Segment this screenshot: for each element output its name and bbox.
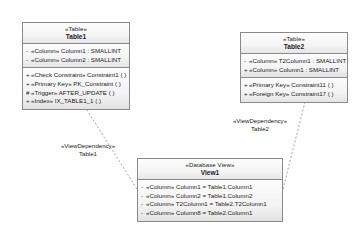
- table1-operation-row[interactable]: +«Index» IX_TABLE1_1 ( ): [23, 97, 129, 106]
- view1-attribute-row[interactable]: -«Column» Column8 = Table2.Column1: [138, 209, 282, 218]
- view1-attribute-row[interactable]: -«Column» Column2 = Table1.Column2: [138, 192, 282, 201]
- table2-name: Table2: [243, 44, 345, 51]
- feature-text: «Column» Column8 = Table2.Column1: [146, 209, 252, 216]
- uml-class-table1[interactable]: «Table» Table1 -«Column» Column1 : SMALL…: [22, 22, 130, 110]
- view1-attributes-compartment: -«Column» Column1 = Table1.Column1 -«Col…: [138, 180, 282, 220]
- table2-stereotype: «Table»: [243, 36, 345, 42]
- connector-label-stereotype: «ViewDependency»: [218, 117, 302, 125]
- table1-attribute-row[interactable]: -«Column» Column2 : SMALLINT: [23, 56, 129, 65]
- table1-attribute-row[interactable]: -«Column» Column1 : SMALLINT: [23, 47, 129, 56]
- table1-operation-row[interactable]: +«Check Constraint» Constraint1 ( ): [23, 71, 129, 80]
- feature-text: «Foreign Key» Constraint17 ( ): [249, 90, 334, 97]
- table1-operation-row[interactable]: +«Primary Key» PK_Constraint ( ): [23, 80, 129, 89]
- table2-operation-row[interactable]: +«Foreign Key» Constraint17 ( ): [241, 90, 347, 99]
- feature-text: «Column» Column2 = Table1.Column2: [146, 192, 252, 199]
- view1-header: «Database View» View1: [138, 159, 282, 180]
- table2-header: «Table» Table2: [241, 33, 347, 54]
- connector-label-stereotype: «ViewDependency»: [46, 142, 130, 150]
- feature-text: «Column» Column1 = Table1.Column1: [146, 183, 252, 190]
- table1-header: «Table» Table1: [23, 23, 129, 44]
- view1-stereotype: «Database View»: [140, 162, 280, 168]
- connector-label-name: Table2: [218, 125, 302, 133]
- connector-dep-table2: [283, 94, 308, 190]
- table2-attribute-row[interactable]: -«Column» T2Column1 : SMALLINT: [241, 57, 347, 66]
- table1-attributes-compartment: -«Column» Column1 : SMALLINT -«Column» C…: [23, 44, 129, 68]
- feature-text: «Column» Column1 : SMALLINT: [31, 47, 121, 54]
- feature-text: «Check Constraint» Constraint1 ( ): [31, 71, 126, 78]
- uml-class-view1[interactable]: «Database View» View1 -«Column» Column1 …: [137, 158, 283, 222]
- table1-operation-row[interactable]: #«Trigger» AFTER_UPDATE ( ): [23, 89, 129, 98]
- table1-stereotype: «Table»: [25, 26, 127, 32]
- table1-operations-compartment: +«Check Constraint» Constraint1 ( ) +«Pr…: [23, 68, 129, 108]
- connector-label-dep-table1[interactable]: «ViewDependency» Table1: [46, 142, 130, 158]
- table1-name: Table1: [25, 34, 127, 41]
- uml-diagram-canvas: Table1 (bottom edge) --> Table2 (bottom …: [0, 0, 360, 235]
- view1-attribute-row[interactable]: -«Column» T2Column1 = Table2.T2Column1: [138, 200, 282, 209]
- feature-text: «Trigger» AFTER_UPDATE ( ): [31, 89, 115, 96]
- feature-text: «Primary Key» Constraint11 ( ): [249, 81, 333, 88]
- table2-operation-row[interactable]: +«Primary Key» Constraint11 ( ): [241, 81, 347, 90]
- connector-label-name: Table1: [46, 150, 130, 158]
- feature-text: «Index» IX_TABLE1_1 ( ): [31, 97, 101, 104]
- feature-text: «Column» Column2 : SMALLINT: [31, 56, 121, 63]
- feature-text: «Column» Column1 : SMALLINT: [249, 66, 339, 73]
- feature-text: «Primary Key» PK_Constraint ( ): [31, 80, 121, 87]
- view1-name: View1: [140, 170, 280, 177]
- feature-text: «Column» T2Column1 : SMALLINT: [249, 57, 346, 64]
- view1-attribute-row[interactable]: -«Column» Column1 = Table1.Column1: [138, 183, 282, 192]
- uml-class-table2[interactable]: «Table» Table2 -«Column» T2Column1 : SMA…: [240, 32, 348, 103]
- feature-text: «Column» T2Column1 = Table2.T2Column1: [146, 200, 267, 207]
- table2-attributes-compartment: -«Column» T2Column1 : SMALLINT +«Column»…: [241, 54, 347, 78]
- table2-attribute-row[interactable]: +«Column» Column1 : SMALLINT: [241, 66, 347, 75]
- connector-label-dep-table2[interactable]: «ViewDependency» Table2: [218, 117, 302, 133]
- table2-operations-compartment: +«Primary Key» Constraint11 ( ) +«Foreig…: [241, 78, 347, 101]
